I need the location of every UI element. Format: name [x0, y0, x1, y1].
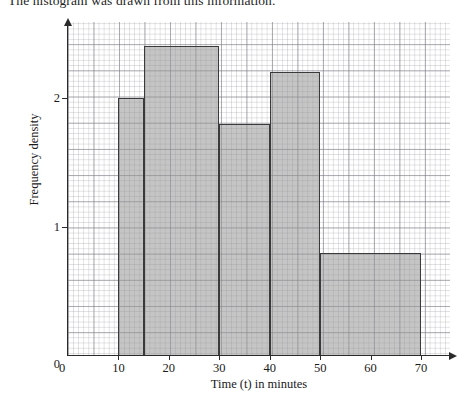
- x-axis-line: [68, 355, 450, 356]
- y-axis-tick: [62, 98, 68, 99]
- x-axis-tick: [270, 355, 271, 360]
- y-axis-tick-label: 0: [54, 357, 60, 372]
- x-axis-arrow-icon: [449, 352, 457, 360]
- x-axis-tick-label: 50: [314, 361, 327, 376]
- y-axis-tick-label: 1: [54, 220, 60, 235]
- x-axis-tick: [169, 355, 170, 360]
- x-axis-tick-label: 60: [364, 361, 377, 376]
- plot-area: [68, 22, 450, 356]
- x-axis-tick: [219, 355, 220, 360]
- x-axis-tick: [371, 355, 372, 360]
- x-axis-tick-label: 30: [213, 361, 226, 376]
- histogram-bar: [320, 253, 421, 356]
- x-axis-tick-label: 40: [263, 361, 276, 376]
- x-axis-title: Time (t) in minutes: [68, 377, 450, 392]
- x-axis-tick: [421, 355, 422, 360]
- x-axis-tick: [118, 355, 119, 360]
- x-axis-tick-label: 70: [415, 361, 428, 376]
- histogram-bar: [118, 98, 143, 356]
- histogram-figure: Frequency density Time (t) in minutes 01…: [0, 0, 470, 395]
- y-axis-title: Frequency density: [27, 85, 42, 235]
- histogram-bar: [219, 124, 269, 356]
- histogram-bar: [144, 46, 220, 356]
- y-axis-tick: [62, 227, 68, 228]
- y-axis-tick-label: 2: [54, 91, 60, 106]
- x-axis-tick-label: 10: [112, 361, 125, 376]
- x-axis-tick-label: 20: [163, 361, 176, 376]
- y-axis-line: [67, 26, 68, 356]
- y-axis-arrow-icon: [64, 18, 72, 26]
- x-axis-tick: [320, 355, 321, 360]
- histogram-bar: [270, 72, 320, 356]
